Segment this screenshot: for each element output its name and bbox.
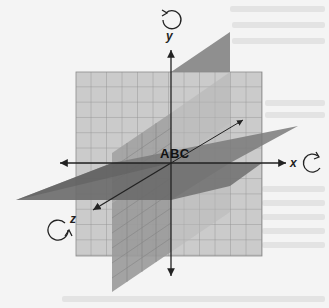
x-rotation-icon bbox=[303, 152, 320, 172]
x-axis-label: x bbox=[290, 156, 297, 170]
z-axis-label: z bbox=[70, 212, 76, 226]
center-label: ABC bbox=[160, 146, 190, 161]
z-rotation-icon bbox=[48, 220, 72, 240]
y-axis-label: y bbox=[166, 29, 173, 43]
y-rotation-icon bbox=[162, 10, 181, 29]
yz-plane-back bbox=[171, 32, 230, 72]
